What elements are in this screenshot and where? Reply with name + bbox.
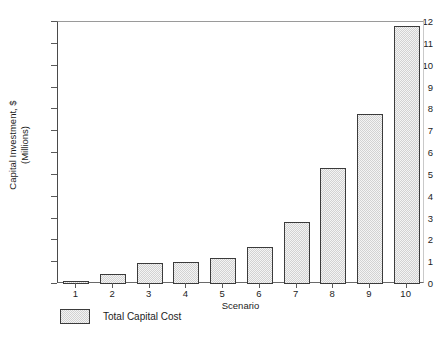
- x-tick-label: 2: [95, 288, 129, 299]
- x-tick-label: 7: [279, 288, 313, 299]
- y-axis-title: Capital Investment, $ (Millions): [2, 0, 36, 290]
- plot-area: [57, 21, 424, 283]
- bar: [357, 114, 383, 284]
- legend-swatch-total-capital-cost: [60, 309, 90, 324]
- bar-chart-figure: Capital Investment, $ (Millions) 0123456…: [0, 0, 442, 338]
- x-tick-label: 4: [168, 288, 202, 299]
- x-tick-label: 1: [58, 288, 92, 299]
- x-tick-label: 8: [315, 288, 349, 299]
- bar: [320, 168, 346, 284]
- bar: [137, 263, 163, 284]
- x-tick-label: 5: [205, 288, 239, 299]
- bar: [247, 247, 273, 284]
- bar: [100, 274, 126, 284]
- chart-legend: Total Capital Cost: [60, 309, 181, 324]
- bar: [173, 262, 199, 284]
- legend-label-total-capital-cost: Total Capital Cost: [103, 311, 181, 322]
- y-axis-title-line-1: Capital Investment, $: [7, 100, 19, 189]
- x-tick-label: 3: [132, 288, 166, 299]
- bar: [394, 26, 420, 284]
- y-axis-title-line-2: (Millions): [19, 100, 31, 189]
- bar: [63, 281, 89, 284]
- bar: [210, 258, 236, 284]
- x-tick-label: 10: [389, 288, 423, 299]
- bar: [284, 222, 310, 284]
- y-tick-mark: [51, 283, 57, 284]
- x-tick-label: 9: [352, 288, 386, 299]
- x-tick-label: 6: [242, 288, 276, 299]
